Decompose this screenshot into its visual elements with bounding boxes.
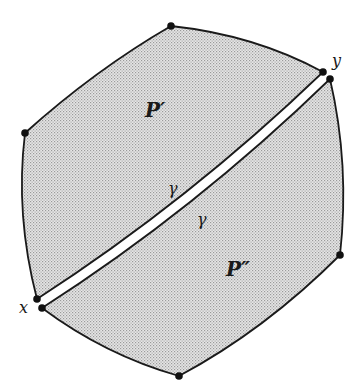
vertex-y-lower bbox=[326, 75, 334, 83]
label-p-prime: P′ bbox=[144, 98, 166, 122]
vertex-x-upper bbox=[33, 295, 41, 303]
label-gamma-lower: γ bbox=[197, 210, 207, 229]
diagram-canvas: P′ P″ γ γ y x bbox=[0, 0, 364, 391]
vertex-right bbox=[336, 251, 344, 259]
vertex-top bbox=[167, 22, 175, 30]
label-gamma-upper: γ bbox=[168, 179, 178, 198]
polygon-diagram: P′ P″ γ γ y x bbox=[0, 0, 364, 391]
label-vertex-y: y bbox=[331, 51, 342, 70]
vertex-bottom bbox=[175, 372, 183, 380]
label-vertex-x: x bbox=[19, 298, 28, 317]
vertex-left bbox=[21, 129, 29, 137]
vertex-x-lower bbox=[38, 304, 46, 312]
vertex-y-upper bbox=[319, 68, 327, 76]
label-p-double-prime: P″ bbox=[225, 257, 250, 281]
